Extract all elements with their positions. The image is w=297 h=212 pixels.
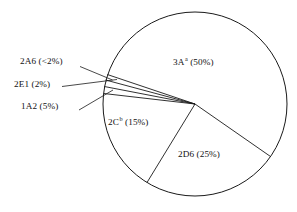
slice-label-2d6-percent: (25%) bbox=[197, 149, 220, 159]
callout-label-1a2: 1A2 (5%) bbox=[21, 102, 58, 111]
slice-label-2c: 2Cb (15%) bbox=[108, 118, 149, 127]
slice-label-2c-superscript: b bbox=[119, 115, 123, 122]
slice-label-3a-percent: (50%) bbox=[190, 57, 213, 67]
callout-label-1a2-percent: (5%) bbox=[40, 101, 59, 111]
slice-label-3a-superscript: a bbox=[184, 55, 187, 62]
callout-label-2e1: 2E1 (2%) bbox=[14, 80, 50, 89]
pie-chart-figure: 3Aa (50%) 2D6 (25%) 2Cb (15%) 2A6 (<2%) … bbox=[0, 0, 297, 212]
slice-label-2c-name: 2C bbox=[108, 117, 119, 127]
slice-label-2d6: 2D6 (25%) bbox=[178, 150, 220, 159]
slice-label-2d6-name: 2D6 bbox=[178, 149, 194, 159]
callout-label-2a6: 2A6 (<2%) bbox=[20, 57, 63, 66]
callout-label-1a2-name: 1A2 bbox=[21, 101, 37, 111]
slice-label-2c-percent: (15%) bbox=[125, 117, 148, 127]
slice-edge-2e1-2a6 bbox=[106, 80, 195, 104]
slice-label-3a-name: 3A bbox=[173, 57, 184, 67]
callout-label-2e1-percent: (2%) bbox=[32, 79, 51, 89]
leader-line-2a6 bbox=[80, 67, 113, 81]
slice-edge-2d6-2c bbox=[147, 104, 195, 183]
leader-line-1a2 bbox=[79, 90, 113, 110]
slice-label-3a: 3Aa (50%) bbox=[173, 58, 214, 67]
callout-label-2a6-percent: (<2%) bbox=[39, 56, 63, 66]
leader-line-2e1 bbox=[62, 80, 117, 87]
callout-label-2a6-name: 2A6 bbox=[20, 56, 36, 66]
callout-label-2e1-name: 2E1 bbox=[14, 79, 29, 89]
